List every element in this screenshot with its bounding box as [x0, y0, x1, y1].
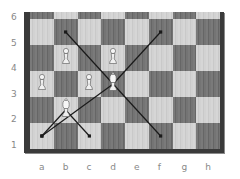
square-c5	[78, 19, 102, 45]
square-h5	[196, 19, 220, 45]
square-b6	[54, 12, 78, 19]
square-e6	[125, 12, 149, 19]
square-b1	[54, 123, 78, 149]
file-label-b: b	[63, 163, 69, 172]
square-g5	[173, 19, 197, 45]
square-g6	[173, 12, 197, 19]
file-label-e: e	[134, 163, 140, 172]
square-f5	[149, 19, 173, 45]
square-g3	[173, 71, 197, 97]
square-f1	[149, 123, 173, 149]
square-c6	[78, 12, 102, 19]
square-g4	[173, 45, 197, 71]
white-pawn-icon	[60, 47, 72, 69]
square-a5	[30, 19, 54, 45]
square-e5	[125, 19, 149, 45]
square-f6	[149, 12, 173, 19]
file-label-h: h	[205, 163, 211, 172]
rank-label-2: 2	[11, 115, 17, 124]
rank-label-5: 5	[11, 39, 17, 48]
rank-label-4: 4	[11, 64, 17, 73]
white-bishop-icon	[60, 98, 72, 122]
file-label-f: f	[158, 163, 161, 172]
square-d2	[101, 97, 125, 123]
file-label-g: g	[181, 163, 187, 172]
square-e2	[125, 97, 149, 123]
white-pawn-icon	[107, 47, 119, 69]
square-f3	[149, 71, 173, 97]
square-h2	[196, 97, 220, 123]
square-d6	[101, 12, 125, 19]
square-a2	[30, 97, 54, 123]
white-pawn-icon	[36, 73, 48, 95]
square-b3	[54, 71, 78, 97]
square-d1	[101, 123, 125, 149]
rank-label-3: 3	[11, 90, 17, 99]
square-c1	[78, 123, 102, 149]
square-a1	[30, 123, 54, 149]
square-e3	[125, 71, 149, 97]
square-c2	[78, 97, 102, 123]
file-label-c: c	[86, 163, 91, 172]
square-b5	[54, 19, 78, 45]
chess-board	[30, 12, 220, 149]
file-label-d: d	[110, 163, 116, 172]
rank-label-1: 1	[11, 141, 17, 150]
square-g2	[173, 97, 197, 123]
square-d5	[101, 19, 125, 45]
square-h6	[196, 12, 220, 19]
square-h4	[196, 45, 220, 71]
square-h3	[196, 71, 220, 97]
square-f2	[149, 97, 173, 123]
file-label-a: a	[39, 163, 45, 172]
square-a6	[30, 12, 54, 19]
rank-label-6: 6	[11, 13, 17, 22]
square-e4	[125, 45, 149, 71]
square-g1	[173, 123, 197, 149]
square-e1	[125, 123, 149, 149]
square-c4	[78, 45, 102, 71]
white-pawn-icon	[83, 73, 95, 95]
square-f4	[149, 45, 173, 71]
square-h1	[196, 123, 220, 149]
square-a4	[30, 45, 54, 71]
white-bishop-icon	[107, 72, 119, 96]
